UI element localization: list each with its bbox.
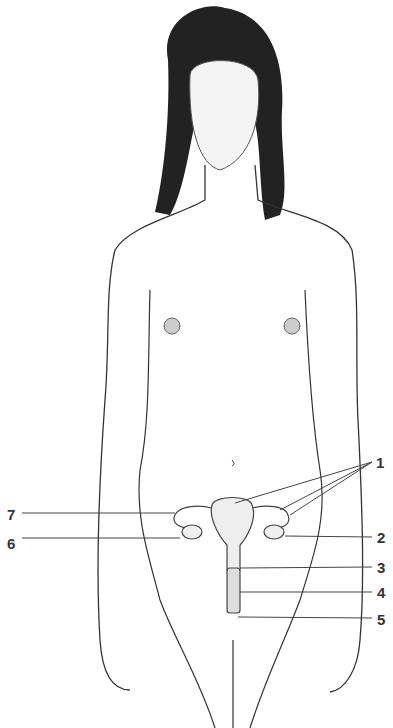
reproductive-organs [174, 498, 289, 614]
face [190, 61, 259, 170]
label-3: 3 [377, 560, 385, 575]
label-5: 5 [377, 612, 385, 627]
label-4: 4 [377, 585, 385, 600]
label-6: 6 [7, 536, 15, 551]
label-2: 2 [377, 530, 385, 545]
anatomical-illustration [0, 0, 393, 728]
label-1: 1 [376, 455, 384, 470]
label-7: 7 [7, 507, 15, 522]
leader-lines [22, 462, 372, 618]
